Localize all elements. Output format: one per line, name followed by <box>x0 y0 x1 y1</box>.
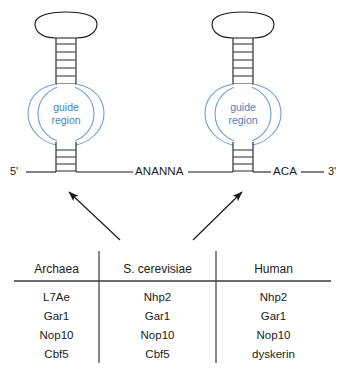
table-header-archaea: Archaea <box>14 262 99 276</box>
three-prime-label: 3' <box>328 165 336 177</box>
left-upper-stem-rungs <box>56 44 76 84</box>
table-header-human: Human <box>216 262 331 276</box>
left-lower-stem-rungs <box>56 150 76 171</box>
table-cell-archaea-1: L7Ae <box>14 291 99 303</box>
table-cell-archaea-3: Nop10 <box>14 329 99 341</box>
right-lower-stem-rungs <box>233 150 253 171</box>
arrow-to-left-stem-loop <box>69 192 120 240</box>
right-guide-region-line2: region <box>208 114 278 127</box>
h-box-label: ANANNA <box>135 165 184 177</box>
left-guide-region-line2: region <box>31 114 101 127</box>
right-upper-stem-rungs <box>233 44 253 84</box>
table-cell-human-3: Nop10 <box>216 329 331 341</box>
table-cell-archaea-2: Gar1 <box>14 310 99 322</box>
right-guide-region-line1: guide <box>208 101 278 114</box>
five-prime-label: 5' <box>10 165 18 177</box>
table-header-s-cerevisiae: S. cerevisiae <box>99 262 216 276</box>
table-cell-human-1: Nhp2 <box>216 291 331 303</box>
right-stem-loop <box>205 12 281 172</box>
table-cell-archaea-4: Cbf5 <box>14 348 99 360</box>
left-stem-loop <box>28 12 104 172</box>
table-cell-s-cerevisiae-4: Cbf5 <box>99 348 216 360</box>
table-cell-s-cerevisiae-2: Gar1 <box>99 310 216 322</box>
right-guide-region-label: guide region <box>208 101 278 126</box>
table-cell-human-4: dyskerin <box>216 348 331 360</box>
aca-box-label: ACA <box>273 165 297 177</box>
left-apical-loop <box>35 12 97 38</box>
right-apical-loop <box>212 12 274 38</box>
arrow-to-right-stem-loop <box>193 192 242 240</box>
left-guide-region-label: guide region <box>31 101 101 126</box>
table-cell-s-cerevisiae-3: Nop10 <box>99 329 216 341</box>
table-cell-s-cerevisiae-1: Nhp2 <box>99 291 216 303</box>
left-guide-region-line1: guide <box>31 101 101 114</box>
diagram-canvas: 5' ANANNA ACA 3' guide region guide regi… <box>0 0 345 375</box>
table-cell-human-2: Gar1 <box>216 310 331 322</box>
